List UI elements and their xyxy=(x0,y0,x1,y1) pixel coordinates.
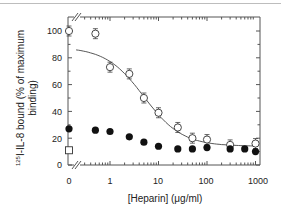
y-tick-label-20: 20 xyxy=(52,134,62,144)
y-tick-label-60: 60 xyxy=(52,80,62,90)
heparin-binding-chart: 0 1 10 100 1000 0 20 40 60 80 100 [Hepar… xyxy=(0,0,281,210)
open-square-point xyxy=(66,147,73,154)
filled-circle-point xyxy=(189,145,196,152)
open-circle-point xyxy=(92,30,99,37)
y-tick-label-0: 0 xyxy=(57,160,62,170)
y-axis-title: 125I-IL-8 bound (% of maximum binding) xyxy=(15,30,38,166)
open-circle-point xyxy=(174,124,181,131)
y-tick-label-80: 80 xyxy=(52,53,62,63)
filled-circle-point xyxy=(241,145,248,152)
open-circle-point xyxy=(140,94,147,101)
filled-circle-point xyxy=(227,145,234,152)
x-tick-label-0: 0 xyxy=(66,176,71,186)
filled-circle-point xyxy=(203,144,210,151)
filled-circle-point xyxy=(155,143,162,150)
y-axis-title-line2: binding) xyxy=(27,80,38,116)
open-circle-point xyxy=(65,27,72,34)
x-tick-label-1000: 1000 xyxy=(248,176,268,186)
open-circle-point xyxy=(252,140,259,147)
open-circle-point xyxy=(106,64,113,71)
filled-circle-point xyxy=(252,148,259,155)
open-circle-point xyxy=(155,109,162,116)
filled-circle-point xyxy=(92,127,99,134)
x-tick-label-10: 10 xyxy=(153,176,163,186)
filled-circle-point xyxy=(140,139,147,146)
y-tick-label-40: 40 xyxy=(52,107,62,117)
y-axis-title-line1: I-IL-8 bound (% of maximum xyxy=(15,30,26,156)
y-tick-label-100: 100 xyxy=(47,26,62,36)
fitted-curve xyxy=(76,50,255,146)
x-tick-label-1: 1 xyxy=(107,176,112,186)
open-circle-point xyxy=(189,135,196,142)
data-points xyxy=(65,26,259,155)
filled-circle-point xyxy=(106,128,113,135)
x-axis-title: [Heparin] (μg/ml) xyxy=(128,193,203,204)
svg-text:125I-IL-8 bound (% of maximum: 125I-IL-8 bound (% of maximum xyxy=(15,30,26,166)
filled-circle-point xyxy=(174,145,181,152)
open-circle-point xyxy=(203,136,210,143)
fitted-curve-path xyxy=(76,50,255,146)
filled-circle-point xyxy=(65,125,72,132)
open-circle-point xyxy=(126,70,133,77)
filled-circle-point xyxy=(126,133,133,140)
x-tick-label-100: 100 xyxy=(198,176,213,186)
